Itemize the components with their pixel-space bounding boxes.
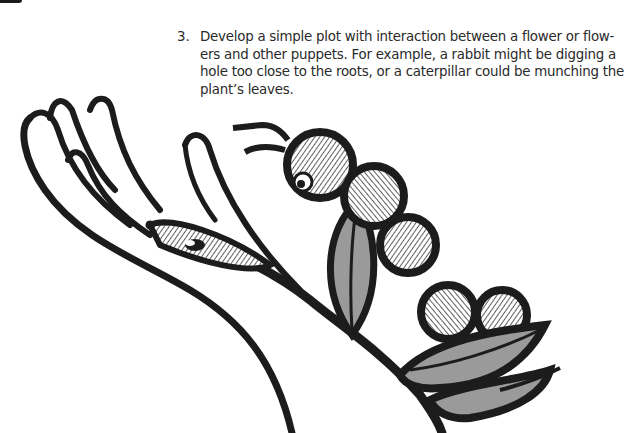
caterpillar: [233, 125, 527, 340]
